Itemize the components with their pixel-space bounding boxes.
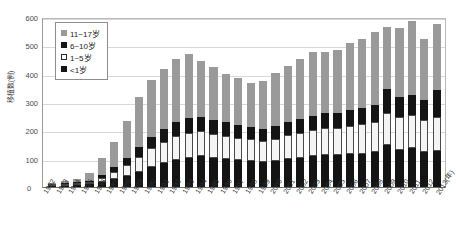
bar-segment [222, 74, 230, 123]
bar-segment [309, 52, 317, 116]
bar-segment [296, 119, 304, 133]
x-tick: 2002 [295, 189, 307, 239]
bar-segment [284, 135, 292, 159]
x-tick: 2008 [370, 189, 382, 239]
bar-column [220, 19, 232, 187]
bar-segment [358, 108, 366, 124]
stacked-bar [433, 24, 441, 187]
bar-segment [110, 142, 118, 167]
bar-segment [321, 52, 329, 114]
bar-segment [284, 122, 292, 135]
bar-column [282, 19, 294, 187]
bar-column [393, 19, 405, 187]
y-axis-zero-label: 0 [27, 184, 31, 193]
stacked-bar [321, 52, 329, 187]
x-tick: 1997 [231, 189, 243, 239]
x-tick: 1992 [168, 189, 180, 239]
bar-segment [160, 129, 168, 142]
bar-segment [271, 126, 279, 138]
bar-column [344, 19, 356, 187]
stacked-bar [358, 39, 366, 187]
bar-segment [420, 120, 428, 152]
x-tick: 2003 [307, 189, 319, 239]
bar-segment [185, 54, 193, 118]
bar-segment [247, 139, 255, 161]
x-tick: 1985 [80, 189, 92, 239]
x-tick: 1996 [219, 189, 231, 239]
x-tick: 1995 [206, 189, 218, 239]
bar-segment [172, 122, 180, 136]
bar-segment [147, 137, 155, 149]
bar-segment [234, 125, 242, 138]
bar-segment [420, 100, 428, 120]
bar-segment [247, 83, 255, 127]
x-tick: 2004 [320, 189, 332, 239]
bar-segment [185, 118, 193, 133]
bar-segment [309, 130, 317, 156]
x-tick: 1993 [181, 189, 193, 239]
bar-segment [209, 134, 217, 158]
bar-segment [408, 21, 416, 95]
bar-column [207, 19, 219, 187]
stacked-bar [309, 52, 317, 187]
bar-segment [296, 59, 304, 119]
bar-segment [420, 39, 428, 100]
bar-column [356, 19, 368, 187]
stacked-bar [197, 61, 205, 187]
bar-segment [371, 122, 379, 153]
stacked-bar [371, 32, 379, 187]
legend-item-under-1: <1岁 [61, 63, 100, 75]
stacked-bar [395, 28, 403, 187]
bar-segment [395, 97, 403, 116]
y-tick-label: 300 [0, 99, 38, 108]
stacked-bar [234, 78, 242, 187]
bar-segment [247, 127, 255, 139]
stacked-bar [160, 69, 168, 187]
bar-segment [147, 148, 155, 167]
stacked-bar [247, 83, 255, 187]
bar-segment [123, 165, 131, 176]
bar-segment [346, 110, 354, 126]
stacked-bar [333, 50, 341, 187]
bar-segment [346, 43, 354, 110]
legend-label: 1~5岁 [70, 52, 92, 63]
stacked-bar [383, 27, 391, 187]
bar-segment [135, 147, 143, 157]
x-axis-tick-labels: 1982198319841985198619871988198919901991… [42, 189, 446, 241]
y-tick-label: 200 [0, 127, 38, 136]
legend-label: 11~17岁 [70, 28, 100, 39]
stacked-bar [271, 73, 279, 187]
bar-column [418, 19, 430, 187]
bar-segment [147, 80, 155, 137]
bar-column [158, 19, 170, 187]
stacked-bar [147, 80, 155, 187]
bar-segment [259, 141, 267, 162]
bar-segment [321, 113, 329, 128]
bar-segment [271, 73, 279, 127]
bar-segment [371, 32, 379, 105]
x-tick: 1991 [156, 189, 168, 239]
bar-column [381, 19, 393, 187]
stacked-bar [185, 54, 193, 187]
bar-column [245, 19, 257, 187]
bar-segment [234, 138, 242, 160]
x-tick: 1984 [67, 189, 79, 239]
bar-segment [172, 136, 180, 160]
bar-segment [395, 117, 403, 150]
bar-column [120, 19, 132, 187]
bar-column [369, 19, 381, 187]
y-tick-label: 600 [0, 14, 38, 23]
bar-segment [259, 129, 267, 141]
stacked-bar [296, 59, 304, 187]
x-tick: 2009 [383, 189, 395, 239]
x-tick: 1990 [143, 189, 155, 239]
bar-segment [358, 39, 366, 108]
bar-segment [197, 61, 205, 117]
bar-segment [408, 95, 416, 115]
x-tick: 2010 [396, 189, 408, 239]
stacked-bar [209, 67, 217, 187]
bar-segment [346, 126, 354, 154]
legend-label: <1岁 [70, 64, 87, 75]
bar-column [431, 19, 443, 187]
